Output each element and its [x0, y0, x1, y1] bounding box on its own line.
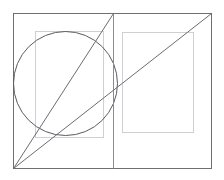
diagram-canvas — [0, 0, 224, 180]
geometric-diagram — [0, 0, 224, 180]
